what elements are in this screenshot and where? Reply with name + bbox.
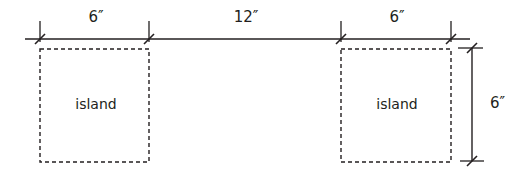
gap-width-label: 12″ [234,8,259,26]
height-label: 6″ [490,94,505,112]
right-width-label: 6″ [389,8,404,26]
left-island-label: island [75,96,116,112]
right-island-label: island [376,96,417,112]
left-width-label: 6″ [88,8,103,26]
